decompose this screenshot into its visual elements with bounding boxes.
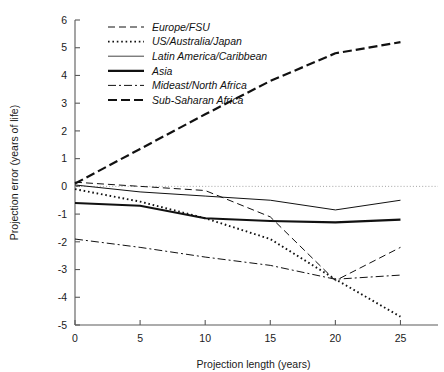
legend-label-0: Europe/FSU (152, 21, 210, 33)
x-tick-label: 0 (72, 332, 78, 344)
y-axis-title: Projection error (years of life) (8, 105, 20, 240)
y-tick-label: -1 (58, 208, 67, 220)
y-tick-label: -4 (58, 291, 67, 303)
legend-label-2: Latin America/Caribbean (152, 50, 267, 62)
chart-container: 6543210-1-2-3-4-5 0510152025 Europe/FSUU… (0, 0, 444, 372)
legend-label-1: US/Australia/Japan (152, 35, 242, 47)
legend-label-3: Asia (151, 65, 173, 77)
series-line-3 (75, 203, 400, 222)
series-line-1 (75, 189, 400, 317)
y-axis-ticks: 6543210-1-2-3-4-5 (58, 14, 80, 331)
legend-label-5: Sub-Saharan Africa (152, 94, 243, 106)
legend-label-4: Mideast/North Africa (152, 79, 247, 91)
x-tick-label: 5 (137, 332, 143, 344)
y-tick-label: 2 (61, 125, 67, 137)
x-tick-label: 25 (395, 332, 407, 344)
plot-frame (75, 20, 438, 325)
x-axis-title: Projection length (years) (197, 358, 311, 370)
series-line-0 (75, 182, 400, 280)
projection-error-line-chart: 6543210-1-2-3-4-5 0510152025 Europe/FSUU… (0, 0, 444, 372)
y-tick-label: 3 (61, 97, 67, 109)
y-tick-label: -5 (58, 319, 67, 331)
y-tick-label: 1 (61, 152, 67, 164)
y-tick-label: -2 (58, 236, 67, 248)
series-line-5 (75, 42, 400, 183)
series-line-4 (75, 239, 400, 279)
x-tick-label: 15 (264, 332, 276, 344)
y-tick-label: 4 (61, 69, 67, 81)
x-tick-label: 10 (199, 332, 211, 344)
y-tick-label: 5 (61, 41, 67, 53)
x-tick-label: 20 (330, 332, 342, 344)
chart-legend: Europe/FSUUS/Australia/JapanLatin Americ… (108, 21, 267, 106)
x-axis-ticks: 0510152025 (72, 320, 406, 344)
y-tick-label: -3 (58, 263, 67, 275)
y-tick-label: 0 (61, 180, 67, 192)
series-line-2 (75, 185, 400, 210)
y-tick-label: 6 (61, 14, 67, 26)
